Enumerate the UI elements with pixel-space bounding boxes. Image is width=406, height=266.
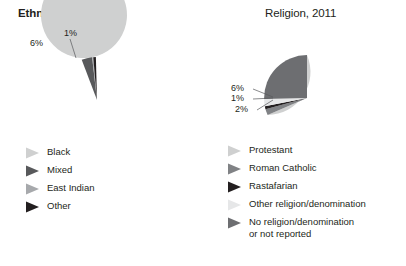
pie-label-other-percent: 1% <box>64 28 77 38</box>
legend-item-mixed: Mixed <box>26 164 95 177</box>
legend-religion: Protestant Roman Catholic Rastafarian Ot… <box>228 144 366 244</box>
legend-label: East Indian <box>47 182 95 194</box>
legend-label: No religion/denomination or not reported <box>249 216 354 239</box>
pie-label-rastafarian-percent: 1% <box>231 93 244 103</box>
legend-marker-triangle-icon <box>228 163 241 175</box>
legend-label: Black <box>47 146 70 158</box>
legend-label: Mixed <box>47 164 72 176</box>
legend-item-other-religion: Other religion/denomination <box>228 198 366 211</box>
pie-label-roman-catholic-percent: 2% <box>235 104 248 114</box>
leader-lines-religion <box>247 85 302 117</box>
legend-item-rastafarian: Rastafarian <box>228 180 366 193</box>
legend-label: Protestant <box>249 144 292 156</box>
legend-marker-triangle-icon <box>26 183 39 195</box>
legend-marker-triangle-icon <box>228 181 241 193</box>
legend-marker-triangle-icon <box>26 147 39 159</box>
chart-title-religion: Religion, 2011 <box>265 7 336 19</box>
legend-item-other: Other <box>26 200 95 213</box>
legend-item-no-religion: No religion/denomination or not reported <box>228 216 366 239</box>
legend-marker-triangle-icon <box>228 199 241 211</box>
legend-marker-triangle-icon <box>26 165 39 177</box>
legend-item-protestant: Protestant <box>228 144 366 157</box>
legend-marker-triangle-icon <box>228 217 241 229</box>
legend-label: Rastafarian <box>249 180 298 192</box>
legend-item-roman-catholic: Roman Catholic <box>228 162 366 175</box>
legend-ethnic-origin: Black Mixed East Indian Other <box>26 146 95 218</box>
legend-marker-triangle-icon <box>26 201 39 213</box>
pie-label-mixed-percent: 6% <box>30 38 43 48</box>
legend-label: Other <box>47 200 71 212</box>
legend-item-east-indian: East Indian <box>26 182 95 195</box>
legend-label: Other religion/denomination <box>249 198 366 210</box>
pie-chart-ethnic-origin <box>51 54 143 146</box>
legend-label: Roman Catholic <box>249 162 317 174</box>
leader-line-ethnic <box>60 36 100 66</box>
chart-panel-religion: Religion, 2011 6% 1% 2% Protestant <box>203 0 406 266</box>
legend-item-black: Black <box>26 146 95 159</box>
pie-label-other-religion-percent: 6% <box>231 83 244 93</box>
legend-marker-triangle-icon <box>228 145 241 157</box>
chart-panel-ethnic-origin: Ethnic origin, 2011 6% 1% Black <box>0 0 203 266</box>
